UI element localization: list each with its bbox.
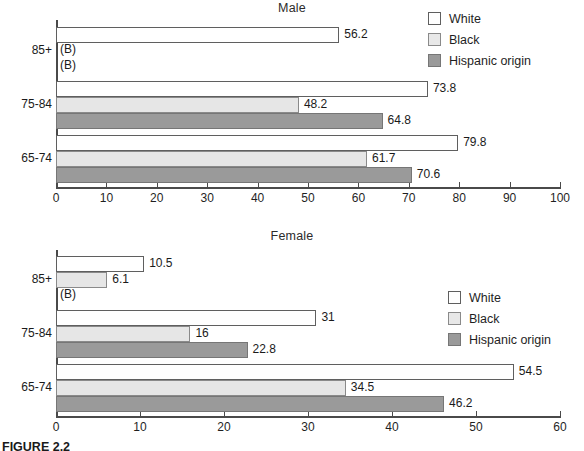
bar-value-label: 10.5 <box>149 256 172 270</box>
category-label: 75-84 <box>0 97 52 111</box>
bar-value-label: 73.8 <box>433 81 456 95</box>
bar-value-label: 79.8 <box>463 135 486 149</box>
bar <box>56 135 458 151</box>
x-axis-tick-label: 30 <box>187 191 227 205</box>
x-axis-tick <box>560 411 561 416</box>
x-axis-tick-label: 50 <box>288 191 328 205</box>
bar <box>56 326 190 342</box>
x-axis-tick-label: 0 <box>36 191 76 205</box>
legend-item-hispanic: Hispanic origin <box>448 330 551 349</box>
suppressed-value-label: (B) <box>60 287 76 301</box>
legend-swatch-black-icon <box>448 312 461 325</box>
x-axis-tick <box>560 182 561 187</box>
x-axis-line <box>56 416 561 418</box>
bar <box>56 310 316 326</box>
category-label: 85+ <box>0 272 52 286</box>
legend-item-white: White <box>428 9 531 28</box>
bar <box>56 97 299 113</box>
legend-label-black: Black <box>449 33 480 47</box>
category-label: 75-84 <box>0 326 52 340</box>
bar-value-label: 56.2 <box>344 27 367 41</box>
suppressed-value-label: (B) <box>60 58 76 72</box>
legend-label-white: White <box>449 12 481 26</box>
legend-item-hispanic: Hispanic origin <box>428 51 531 70</box>
category-label: 65-74 <box>0 151 52 165</box>
figure-caption: FIGURE 2.2 <box>2 440 70 451</box>
x-axis-tick-label: 40 <box>372 420 412 434</box>
legend-label-white: White <box>469 291 501 305</box>
bar-value-label: 46.2 <box>449 396 472 410</box>
bar <box>56 380 346 396</box>
bar-value-label: 31 <box>321 310 334 324</box>
legend-male: White Black Hispanic origin <box>428 9 531 72</box>
legend-item-black: Black <box>428 30 531 49</box>
bar <box>56 27 339 43</box>
bar <box>56 256 144 272</box>
x-axis-tick-label: 100 <box>540 191 580 205</box>
bar-value-label: 48.2 <box>304 97 327 111</box>
bar-value-label: 34.5 <box>351 380 374 394</box>
legend-item-black: Black <box>448 309 551 328</box>
bar-value-label: 61.7 <box>372 151 395 165</box>
legend-female: White Black Hispanic origin <box>448 288 551 351</box>
bar <box>56 272 107 288</box>
bar <box>56 342 248 358</box>
bar <box>56 81 428 97</box>
x-axis-tick-label: 40 <box>238 191 278 205</box>
bar-value-label: 6.1 <box>112 272 129 286</box>
bar-value-label: 54.5 <box>519 364 542 378</box>
bar <box>56 396 444 412</box>
legend-swatch-white-icon <box>428 12 441 25</box>
category-label: 65-74 <box>0 380 52 394</box>
bar <box>56 167 412 183</box>
legend-label-hispanic: Hispanic origin <box>449 54 531 68</box>
chart-title-female: Female <box>0 229 584 243</box>
legend-swatch-hispanic-icon <box>428 54 441 67</box>
bar <box>56 113 383 129</box>
x-axis-tick-label: 70 <box>389 191 429 205</box>
x-axis-tick-label: 60 <box>338 191 378 205</box>
category-label: 85+ <box>0 43 52 57</box>
x-axis-tick-label: 90 <box>490 191 530 205</box>
x-axis-tick-label: 10 <box>120 420 160 434</box>
x-axis-tick-label: 30 <box>288 420 328 434</box>
bar-value-label: 64.8 <box>388 113 411 127</box>
bar <box>56 151 367 167</box>
x-axis-tick-label: 60 <box>540 420 580 434</box>
legend-swatch-white-icon <box>448 291 461 304</box>
x-axis-tick <box>476 411 477 416</box>
x-axis-tick <box>459 182 460 187</box>
legend-label-hispanic: Hispanic origin <box>469 333 551 347</box>
bar-value-label: 70.6 <box>417 167 440 181</box>
x-axis-tick-label: 0 <box>36 420 76 434</box>
bar-value-label: 22.8 <box>253 342 276 356</box>
chart-panel-female: Female 010203040506085+10.56.1(B)75-8431… <box>0 226 584 440</box>
legend-label-black: Black <box>469 312 500 326</box>
bar <box>56 364 514 380</box>
x-axis-tick-label: 20 <box>137 191 177 205</box>
suppressed-value-label: (B) <box>60 42 76 56</box>
x-axis-tick-label: 10 <box>86 191 126 205</box>
legend-swatch-black-icon <box>428 33 441 46</box>
legend-item-white: White <box>448 288 551 307</box>
x-axis-tick-label: 80 <box>439 191 479 205</box>
bar-value-label: 16 <box>195 326 208 340</box>
x-axis-line <box>56 187 561 189</box>
x-axis-tick <box>510 182 511 187</box>
x-axis-tick-label: 20 <box>204 420 244 434</box>
chart-panel-male: Male 010203040506070809010085+56.2(B)(B)… <box>0 0 584 226</box>
x-axis-tick-label: 50 <box>456 420 496 434</box>
legend-swatch-hispanic-icon <box>448 333 461 346</box>
